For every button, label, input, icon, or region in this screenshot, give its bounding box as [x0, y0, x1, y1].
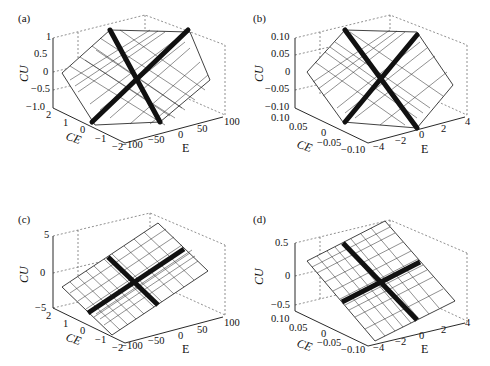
z-tick: 1	[46, 32, 51, 43]
x-tick: −2	[395, 136, 406, 147]
y-tick: 2	[46, 311, 51, 322]
y-tick: 0.10	[271, 314, 289, 325]
z-tick: 0	[285, 67, 290, 78]
x-tick: 100	[224, 117, 240, 128]
x-tick: 2	[441, 325, 446, 336]
z-tick: 5	[44, 230, 49, 241]
z-tick: 0	[40, 268, 45, 279]
z-tick: −5	[35, 303, 46, 314]
z-tick: −0.10	[265, 102, 289, 113]
y-tick: 0.05	[289, 122, 307, 133]
panel-label: (b)	[253, 12, 266, 24]
y-tick: −1	[95, 335, 106, 346]
panel-a: (a) 1 0.5 0 −0.5 −1.0 CU 2 1 0 −1 −2 CE …	[0, 0, 245, 183]
x-tick: −2	[395, 337, 406, 348]
x-tick: −4	[373, 142, 384, 153]
y-tick: −1	[95, 134, 106, 145]
x-axis-label: E	[182, 343, 189, 355]
x-axis-label: E	[421, 143, 428, 155]
surface-plot-d	[245, 183, 490, 366]
z-tick: −0.05	[265, 84, 289, 95]
z-tick: 0.05	[271, 49, 289, 60]
z-tick: 0.5	[34, 49, 47, 60]
y-tick: −0.10	[341, 145, 365, 156]
z-tick: −0.5	[271, 300, 290, 311]
x-tick: 100	[224, 318, 240, 329]
x-tick: 50	[197, 325, 208, 336]
y-tick: −0.10	[341, 345, 365, 356]
y-tick: 0.05	[289, 323, 307, 334]
z-tick: −1.0	[26, 102, 45, 113]
x-tick: 2	[441, 124, 446, 135]
z-axis-label: CU	[253, 268, 265, 285]
panel-label: (c)	[18, 213, 30, 225]
x-tick: 50	[197, 124, 208, 135]
x-tick: −100	[121, 140, 143, 151]
surface-plot-c	[0, 183, 245, 366]
z-tick: 0.5	[275, 238, 288, 249]
z-axis-label: CU	[18, 266, 30, 283]
x-tick: 4	[465, 117, 470, 128]
panel-label: (d)	[253, 213, 266, 225]
z-tick: 0	[285, 271, 290, 282]
z-tick: 0	[43, 67, 48, 78]
y-tick: 2	[46, 110, 51, 121]
x-axis-label: E	[182, 142, 189, 154]
panel-b: (b) 0.10 0.05 0 −0.05 −0.10 CU 0.10 0.05…	[245, 0, 490, 183]
x-axis-label: E	[421, 343, 428, 355]
x-tick: 0	[178, 130, 183, 141]
panel-c: (c) 5 0 −5 CU 2 1 0 −1 −2 CE −100 −50 0 …	[0, 183, 245, 366]
y-tick: −0.05	[317, 138, 341, 149]
panel-d: (d) 0.5 0 −0.5 CU 0.10 0.05 0 −0.05 −0.1…	[245, 183, 490, 366]
x-tick: −4	[373, 343, 384, 354]
z-tick: −0.5	[31, 84, 50, 95]
y-tick: 1	[63, 319, 68, 330]
y-tick: 1	[63, 118, 68, 129]
x-tick: 0	[178, 331, 183, 342]
z-axis-label: CU	[18, 65, 30, 82]
x-tick: 0	[419, 331, 424, 342]
panel-label: (a)	[18, 12, 30, 24]
y-tick: −0.05	[317, 338, 341, 349]
x-tick: −50	[148, 135, 164, 146]
z-tick: 0.10	[271, 32, 289, 43]
x-tick: 0	[419, 130, 424, 141]
z-axis-label: CU	[253, 65, 265, 82]
x-tick: −50	[148, 336, 164, 347]
y-tick: 0.10	[271, 113, 289, 124]
x-tick: −100	[121, 341, 143, 352]
x-tick: 4	[465, 318, 470, 329]
